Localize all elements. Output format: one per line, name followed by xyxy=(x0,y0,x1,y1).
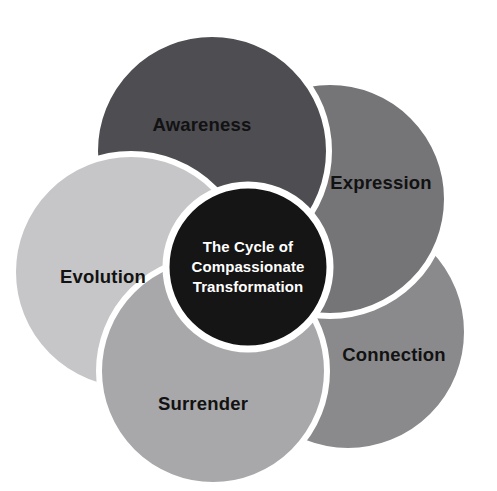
petal-label-surrender: Surrender xyxy=(158,395,248,414)
center-hub-line-1: The Cycle of xyxy=(172,237,324,257)
cycle-diagram: Awareness Expression Connection Surrende… xyxy=(0,0,497,491)
center-hub-line-3: Transformation xyxy=(172,277,324,297)
petal-label-evolution: Evolution xyxy=(60,268,146,287)
center-hub-label: The Cycle of Compassionate Transformatio… xyxy=(172,237,324,296)
petal-label-expression: Expression xyxy=(330,174,432,193)
center-hub-line-2: Compassionate xyxy=(172,257,324,277)
petal-label-awareness: Awareness xyxy=(152,116,251,135)
petal-label-connection: Connection xyxy=(342,346,446,365)
